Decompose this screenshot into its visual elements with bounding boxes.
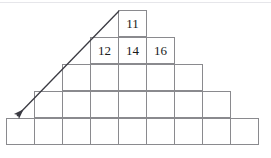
pyramid-row-2: 121416 [90,38,175,65]
pyramid-cell-empty[interactable] [62,118,91,145]
pyramid-cell-empty[interactable] [174,118,203,145]
pyramid-cell-empty[interactable] [174,64,203,91]
pyramid-cell-empty[interactable] [90,64,119,91]
pyramid-cell-empty[interactable] [146,118,175,145]
pyramid-cell-empty[interactable] [202,91,231,118]
pyramid-row-4 [34,92,231,119]
pyramid-cell-empty[interactable] [174,91,203,118]
pyramid-cell-filled[interactable]: 12 [90,37,119,64]
pyramid-cell-empty[interactable] [118,64,147,91]
pyramid-cell-empty[interactable] [118,118,147,145]
pyramid-cell-empty[interactable] [6,118,35,145]
figure-canvas: 11 121416 [0,0,271,158]
pyramid-cell-empty[interactable] [34,91,63,118]
pyramid-cell-empty[interactable] [90,91,119,118]
pyramid-cell-empty[interactable] [34,118,63,145]
pyramid-cell-empty[interactable] [62,64,91,91]
pyramid-cell-empty[interactable] [230,118,259,145]
pyramid-row-3 [62,65,203,92]
pyramid-cell-filled[interactable]: 14 [118,37,147,64]
pyramid-row-1: 11 [118,11,147,38]
pyramid-cell-empty[interactable] [118,91,147,118]
pyramid-cell-empty[interactable] [146,91,175,118]
pyramid-cell-filled[interactable]: 16 [146,37,175,64]
pyramid-cell-empty[interactable] [62,91,91,118]
pyramid-cell-empty[interactable] [202,118,231,145]
pyramid-cell-empty[interactable] [90,118,119,145]
pyramid-cell-empty[interactable] [146,64,175,91]
number-pyramid: 11 121416 [0,0,271,158]
pyramid-cell-filled[interactable]: 11 [118,10,147,37]
pyramid-row-5 [6,119,259,146]
